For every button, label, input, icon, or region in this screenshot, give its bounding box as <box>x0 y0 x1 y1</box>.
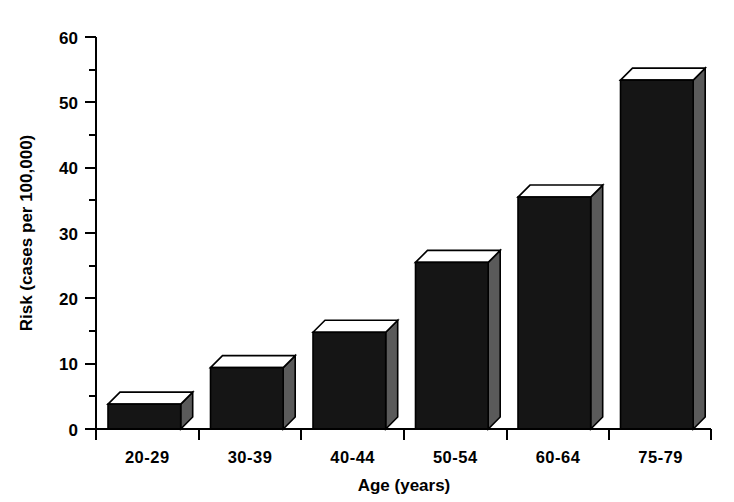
bar-50-54[interactable] <box>416 250 501 429</box>
bar-top-face <box>211 356 296 368</box>
y-tick-label-30: 30 <box>59 225 78 244</box>
bar-side-face <box>386 320 398 429</box>
bar-20-29[interactable] <box>108 392 193 429</box>
bar-side-face <box>488 250 500 429</box>
bar-front-face <box>108 404 181 429</box>
bar-75-79[interactable] <box>621 68 706 429</box>
y-tick-label-50: 50 <box>59 94 78 113</box>
bar-top-face <box>108 392 193 404</box>
bar-top-face <box>518 185 603 197</box>
cat-label-60-64: 60-64 <box>536 448 581 466</box>
y-tick-label-0: 0 <box>69 421 78 440</box>
cat-label-50-54: 50-54 <box>433 448 478 466</box>
bar-front-face <box>313 332 386 429</box>
bar-front-face <box>621 80 694 429</box>
y-tick-label-60: 60 <box>59 29 78 48</box>
bar-side-face <box>693 68 705 429</box>
y-tick-label-40: 40 <box>59 159 78 178</box>
bar-top-face <box>313 320 398 332</box>
bar-60-64[interactable] <box>518 185 603 429</box>
bar-top-face <box>621 68 706 80</box>
bar-chart-svg: 0 10 20 30 40 50 60 <box>0 0 734 502</box>
bar-front-face <box>416 262 489 429</box>
chart-figure: 0 10 20 30 40 50 60 <box>0 0 734 502</box>
bar-30-39[interactable] <box>211 356 296 429</box>
cat-label-30-39: 30-39 <box>228 448 273 466</box>
y-tick-label-20: 20 <box>59 290 78 309</box>
y-tick-label-10: 10 <box>59 355 78 374</box>
bar-top-face <box>416 250 501 262</box>
bar-front-face <box>518 197 591 429</box>
bar-side-face <box>591 185 603 429</box>
cat-label-75-79: 75-79 <box>638 448 683 466</box>
bar-front-face <box>211 368 284 429</box>
cat-label-40-44: 40-44 <box>330 448 375 466</box>
bar-40-44[interactable] <box>313 320 398 429</box>
cat-label-20-29: 20-29 <box>125 448 170 466</box>
x-axis-title: Age (years) <box>358 476 451 495</box>
y-axis-title: Risk (cases per 100,000) <box>17 135 36 332</box>
